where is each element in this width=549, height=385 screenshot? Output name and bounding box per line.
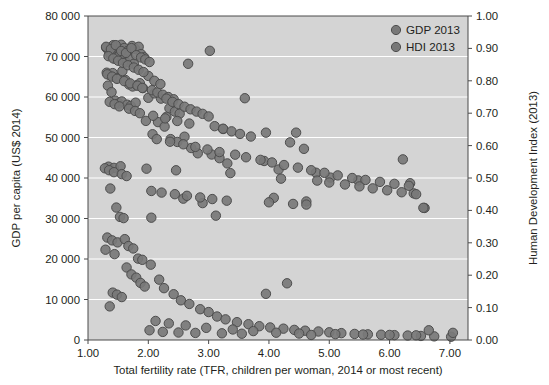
data-point xyxy=(158,327,167,336)
data-point xyxy=(146,260,155,269)
data-point xyxy=(157,188,166,197)
y-axis-left-tick-label: 80 000 xyxy=(45,10,80,22)
data-point xyxy=(424,326,433,335)
legend-marker-icon xyxy=(391,25,400,34)
legend-marker-icon xyxy=(391,42,400,51)
data-point xyxy=(195,193,204,202)
data-point xyxy=(135,109,144,118)
data-point xyxy=(320,168,329,177)
data-point xyxy=(208,194,217,203)
scatter-chart-figure: 010 00020 00030 00040 00050 00060 00070 … xyxy=(0,0,549,385)
legend-label-gdp-2013: GDP 2013 xyxy=(406,23,460,36)
data-point xyxy=(139,67,148,76)
data-point xyxy=(385,330,394,339)
y-axis-left-tick-label: 0 xyxy=(74,334,80,346)
data-point xyxy=(217,329,226,338)
data-point xyxy=(161,114,170,123)
data-point xyxy=(306,166,315,175)
data-point xyxy=(115,102,124,111)
y-axis-left-tick-label: 60 000 xyxy=(45,91,80,103)
data-point xyxy=(285,138,294,147)
data-point xyxy=(117,292,126,301)
data-point xyxy=(145,326,154,335)
data-point xyxy=(288,199,297,208)
y-axis-left-tick-label: 50 000 xyxy=(45,132,80,144)
data-point xyxy=(271,328,280,337)
data-point xyxy=(221,315,230,324)
data-point xyxy=(185,299,194,308)
data-point xyxy=(382,186,391,195)
x-axis-tick-label: 7.00 xyxy=(439,347,461,359)
data-point xyxy=(235,129,244,138)
data-point xyxy=(170,190,179,199)
data-point xyxy=(140,282,149,291)
data-point xyxy=(411,331,420,340)
y-axis-left-tick-label: 10 000 xyxy=(45,294,80,306)
data-point xyxy=(183,59,192,68)
data-point xyxy=(223,159,232,168)
y-axis-right-title: Human Development Index (2013) xyxy=(527,91,539,265)
data-point xyxy=(154,275,163,284)
x-axis-tick-label: 1.00 xyxy=(77,347,99,359)
data-point xyxy=(246,132,255,141)
data-point xyxy=(211,211,220,220)
data-point xyxy=(256,155,265,164)
data-point xyxy=(185,119,194,128)
y-axis-right-tick-label: 0.80 xyxy=(476,75,498,87)
data-point xyxy=(101,245,110,254)
data-point xyxy=(228,325,237,334)
data-point xyxy=(204,112,213,121)
data-point xyxy=(156,79,165,88)
data-point xyxy=(165,137,174,146)
chart-canvas: 010 00020 00030 00040 00050 00060 00070 … xyxy=(0,0,549,385)
y-axis-left-tick-label: 40 000 xyxy=(45,172,80,184)
x-axis-tick-label: 3.00 xyxy=(198,347,220,359)
data-point xyxy=(148,111,157,120)
data-point xyxy=(261,289,270,298)
data-point xyxy=(138,255,147,264)
data-point xyxy=(122,171,131,180)
data-point xyxy=(145,57,154,66)
data-point xyxy=(276,174,285,183)
data-point xyxy=(203,145,212,154)
data-point xyxy=(261,128,270,137)
data-point xyxy=(358,330,367,339)
y-axis-left-tick-label: 20 000 xyxy=(45,253,80,265)
data-point xyxy=(448,328,457,337)
data-point xyxy=(226,168,235,177)
data-point xyxy=(302,200,311,209)
data-point xyxy=(105,302,114,311)
data-point xyxy=(171,166,180,175)
data-point xyxy=(267,158,276,167)
data-point xyxy=(174,328,183,337)
data-point xyxy=(129,244,138,253)
data-point xyxy=(299,144,308,153)
y-axis-right-tick-label: 0.10 xyxy=(476,302,498,314)
x-axis-tick-label: 4.00 xyxy=(258,347,280,359)
data-point xyxy=(142,164,151,173)
data-point xyxy=(151,316,160,325)
data-point xyxy=(230,150,239,159)
data-point xyxy=(419,203,428,212)
data-point xyxy=(282,279,291,288)
data-point xyxy=(340,180,349,189)
data-point xyxy=(240,94,249,103)
data-point xyxy=(222,196,231,205)
data-point xyxy=(293,163,302,172)
data-point xyxy=(264,198,273,207)
y-axis-right-tick-label: 0.60 xyxy=(476,140,498,152)
data-point xyxy=(202,323,211,332)
data-point xyxy=(294,329,303,338)
data-point xyxy=(279,160,288,169)
data-point xyxy=(397,188,406,197)
data-point xyxy=(355,182,364,191)
y-axis-left-title: GDP per capita (US$ 2014) xyxy=(10,108,22,247)
data-point xyxy=(112,203,121,212)
data-point xyxy=(106,184,115,193)
legend-label-hdi-2013: HDI 2013 xyxy=(406,40,455,53)
data-point xyxy=(249,326,258,335)
data-point xyxy=(205,46,214,55)
x-axis-title: Total fertility rate (TFR, children per … xyxy=(113,364,442,376)
data-point xyxy=(191,142,200,151)
data-point xyxy=(411,190,420,199)
